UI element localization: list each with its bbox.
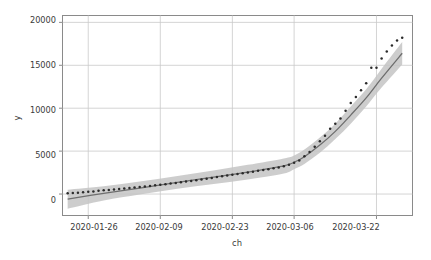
data-point	[288, 164, 291, 167]
y-tick-label-5000: 5000	[35, 150, 56, 160]
y-tick-label-20000: 20000	[30, 15, 56, 25]
data-point	[267, 168, 270, 171]
data-point	[396, 39, 399, 42]
data-point	[102, 189, 105, 192]
y-tick-label-15000: 15000	[30, 60, 56, 70]
data-point	[262, 169, 265, 172]
data-point	[174, 182, 177, 185]
x-tick-label-4: 2020-03-22	[332, 222, 380, 232]
data-point	[87, 191, 90, 194]
data-point	[205, 177, 208, 180]
data-point	[221, 175, 224, 178]
data-point	[391, 44, 394, 47]
data-point	[334, 122, 337, 125]
data-point	[180, 181, 183, 184]
data-point	[169, 182, 172, 185]
data-point	[329, 128, 332, 131]
data-point	[128, 187, 131, 190]
x-tick-label-2: 2020-02-23	[201, 222, 249, 232]
x-tick-label-1: 2020-02-09	[135, 222, 183, 232]
data-point	[241, 172, 244, 175]
data-point	[247, 171, 250, 174]
y-axis-title: y	[12, 115, 22, 120]
data-point	[339, 117, 342, 120]
data-point	[82, 191, 85, 194]
data-point	[216, 176, 219, 179]
data-point	[185, 180, 188, 183]
data-point	[123, 187, 126, 190]
data-point	[236, 173, 239, 176]
data-point	[226, 174, 229, 177]
data-point	[231, 174, 234, 177]
data-point	[308, 151, 311, 154]
data-point	[138, 186, 141, 189]
data-point	[277, 166, 280, 169]
data-point	[293, 161, 296, 164]
data-point	[113, 188, 116, 191]
data-point	[97, 190, 100, 193]
data-point	[252, 170, 255, 173]
data-point	[133, 186, 136, 189]
data-point	[164, 183, 167, 186]
data-point	[324, 134, 327, 137]
x-axis-title: ch	[232, 238, 242, 248]
data-point	[200, 178, 203, 181]
data-point	[144, 185, 147, 188]
data-point	[344, 110, 347, 113]
scatter-regression-chart: 0 5000 10000 15000 20000 2020-01-26 2020…	[0, 0, 431, 260]
x-tick-label-3: 2020-03-06	[266, 222, 314, 232]
data-point	[355, 96, 358, 99]
data-point	[272, 167, 275, 170]
chart-container: 0 5000 10000 15000 20000 2020-01-26 2020…	[0, 0, 431, 260]
data-point	[360, 89, 363, 92]
data-point	[257, 170, 260, 173]
data-point	[77, 191, 80, 194]
data-point	[375, 67, 378, 70]
data-point	[92, 190, 95, 193]
y-tick-label-10000: 10000	[30, 105, 56, 115]
data-point	[283, 165, 286, 168]
y-tick-label-0: 0	[51, 195, 56, 205]
data-point	[149, 185, 152, 188]
data-point	[66, 192, 69, 195]
data-point	[211, 177, 214, 180]
data-point	[108, 189, 111, 192]
data-point	[365, 82, 368, 85]
data-point	[303, 155, 306, 158]
data-point	[380, 57, 383, 60]
data-point	[118, 188, 121, 191]
data-point	[319, 140, 322, 143]
data-point	[370, 67, 373, 70]
data-point	[190, 180, 193, 183]
data-point	[386, 50, 389, 53]
data-point	[195, 179, 198, 182]
data-point	[72, 192, 75, 195]
data-point	[313, 146, 316, 149]
data-point	[298, 159, 301, 162]
data-point	[401, 37, 404, 40]
data-point	[159, 184, 162, 187]
data-point	[154, 184, 157, 187]
x-tick-label-0: 2020-01-26	[70, 222, 118, 232]
data-point	[349, 102, 352, 105]
